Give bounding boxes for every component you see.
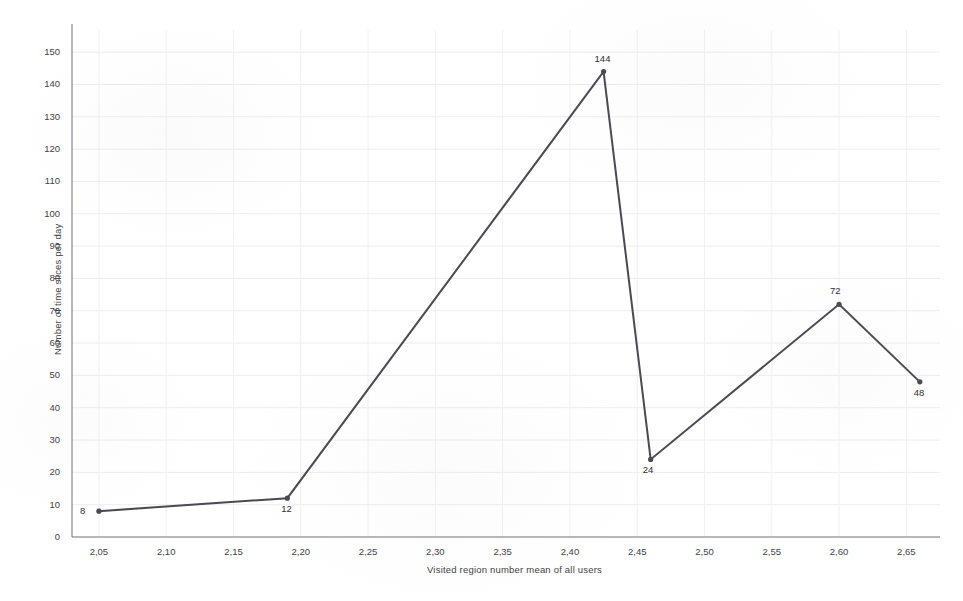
x-tick-label: 2,10: [141, 546, 191, 557]
line-chart: 0102030405060708090100110120130140150 2,…: [0, 0, 963, 601]
x-axis-title: Visited region number mean of all users: [427, 564, 602, 575]
chart-canvas: [0, 0, 963, 601]
y-tick-label: 110: [28, 175, 60, 186]
data-point-label: 48: [914, 387, 925, 398]
y-tick-label: 100: [28, 208, 60, 219]
y-axis-title: Number of time slices per day: [52, 224, 63, 355]
x-tick-label: 2,15: [208, 546, 258, 557]
x-tick-label: 2,25: [343, 546, 393, 557]
gridlines: [72, 30, 940, 537]
x-tick-label: 2,05: [74, 546, 124, 557]
data-point-label: 12: [281, 503, 292, 514]
y-tick-label: 40: [28, 402, 60, 413]
y-tick-label: 120: [28, 143, 60, 154]
x-tick-label: 2,45: [612, 546, 662, 557]
y-tick-label: 50: [28, 369, 60, 380]
data-point-label: 72: [830, 285, 841, 296]
x-tick-label: 2,35: [478, 546, 528, 557]
axis-lines: [72, 24, 940, 537]
x-tick-label: 2,40: [545, 546, 595, 557]
series-markers: [96, 69, 922, 514]
x-tick-label: 2,65: [881, 546, 931, 557]
y-tick-label: 20: [28, 466, 60, 477]
y-tick-label: 30: [28, 434, 60, 445]
y-tick-label: 130: [28, 111, 60, 122]
data-point-label: 144: [595, 53, 611, 64]
y-tick-label: 150: [28, 46, 60, 57]
x-tick-label: 2,50: [679, 546, 729, 557]
x-tick-label: 2,30: [410, 546, 460, 557]
data-point-label: 24: [643, 464, 654, 475]
series-line-path: [99, 72, 920, 512]
y-tick-label: 140: [28, 78, 60, 89]
data-point-label: 8: [80, 505, 85, 516]
x-tick-label: 2,55: [747, 546, 797, 557]
y-tick-label: 10: [28, 499, 60, 510]
x-tick-label: 2,60: [814, 546, 864, 557]
y-tick-label: 0: [28, 531, 60, 542]
x-tick-label: 2,20: [276, 546, 326, 557]
